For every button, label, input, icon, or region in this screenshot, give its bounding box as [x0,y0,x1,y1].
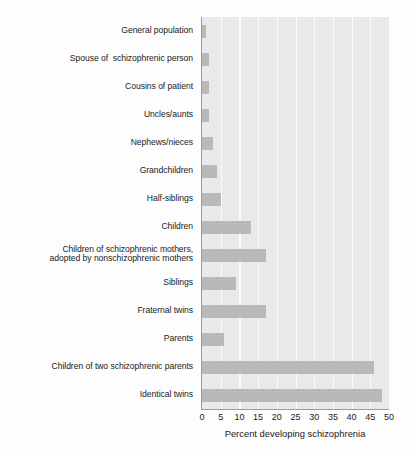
plot-area [201,17,389,409]
category-label: General population [0,26,193,36]
category-label: Children of schizophrenic mothers, adopt… [0,245,193,264]
bar [202,361,374,374]
category-label: Children of two schizophrenic parents [0,362,193,372]
tick-label-5: 5 [218,412,223,422]
category-label: Half-siblings [0,194,193,204]
tick-label-10: 10 [234,412,244,422]
category-label: Children [0,222,193,232]
bar [202,277,236,290]
bar [202,305,266,318]
category-label: Nephews/nieces [0,138,193,148]
category-label: Cousins of patient [0,82,193,92]
bar [202,165,217,178]
tick-label-35: 35 [328,412,338,422]
category-label: Uncles/aunts [0,110,193,120]
bar [202,81,209,94]
category-label: Identical twins [0,390,193,400]
category-label: Parents [0,334,193,344]
tick-label-40: 40 [347,412,357,422]
x-axis-tick-labels: 05101520253035404550 [201,412,389,426]
bar [202,193,221,206]
category-axis-labels: General populationSpouse of schizophreni… [0,17,197,409]
tick-label-25: 25 [290,412,300,422]
gridline-50 [389,17,390,409]
chart-figure: General populationSpouse of schizophreni… [0,0,409,456]
bar [202,389,382,402]
bar-series [202,17,389,409]
tick-label-15: 15 [253,412,263,422]
x-axis-line [201,409,389,410]
bar [202,109,209,122]
category-label: Siblings [0,278,193,288]
bar [202,25,206,38]
x-axis-title: Percent developing schizophrenia [201,428,389,439]
tick-label-50: 50 [384,412,394,422]
tick-label-0: 0 [199,412,204,422]
tick-label-20: 20 [272,412,282,422]
bar [202,249,266,262]
bar [202,333,224,346]
bar [202,221,251,234]
bar [202,53,209,66]
category-label: Fraternal twins [0,306,193,316]
bar [202,137,213,150]
tick-label-30: 30 [309,412,319,422]
tick-label-45: 45 [365,412,375,422]
category-label: Grandchildren [0,166,193,176]
category-label: Spouse of schizophrenic person [0,54,193,64]
